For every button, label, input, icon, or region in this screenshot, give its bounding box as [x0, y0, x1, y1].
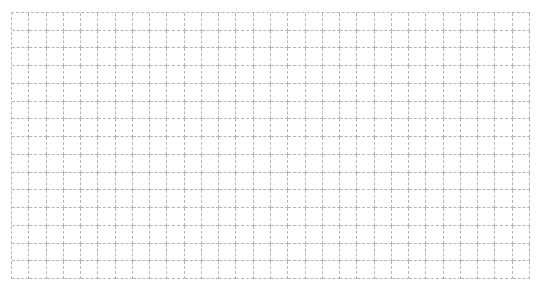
grid-cell [12, 102, 29, 120]
grid-cell [133, 119, 150, 137]
grid-cell [98, 261, 115, 279]
grid-cell [288, 226, 305, 244]
grid-cell [495, 226, 512, 244]
grid-cell [254, 84, 271, 102]
grid-cell [357, 13, 374, 31]
grid-cell [47, 208, 64, 226]
grid-cell [478, 66, 495, 84]
grid-cell [444, 244, 461, 262]
grid-cell [185, 261, 202, 279]
grid-cell [219, 208, 236, 226]
grid-cell [444, 137, 461, 155]
grid-cell [185, 137, 202, 155]
grid-cell [202, 119, 219, 137]
grid-cell [323, 226, 340, 244]
grid-cell [478, 137, 495, 155]
grid-cell [81, 226, 98, 244]
grid-cell [167, 155, 184, 173]
grid-cell [409, 66, 426, 84]
grid-cell [133, 137, 150, 155]
grid-cell [64, 48, 81, 66]
grid-cell [150, 66, 167, 84]
grid-cell [185, 13, 202, 31]
grid-cell [357, 119, 374, 137]
grid-cell [478, 119, 495, 137]
grid-cell [323, 84, 340, 102]
grid-cell [323, 190, 340, 208]
grid-cell [236, 66, 253, 84]
grid-cell [64, 31, 81, 49]
grid-cell [219, 137, 236, 155]
grid-cell [340, 190, 357, 208]
grid-cell [409, 119, 426, 137]
grid-cell [116, 31, 133, 49]
grid-cell [29, 66, 46, 84]
grid-cell [478, 84, 495, 102]
grid-cell [323, 102, 340, 120]
grid-cell [392, 48, 409, 66]
grid-cell [47, 102, 64, 120]
grid-cell [98, 208, 115, 226]
grid-cell [81, 119, 98, 137]
grid-cell [392, 137, 409, 155]
grid-cell [513, 208, 530, 226]
grid-cell [409, 48, 426, 66]
grid-cell [444, 84, 461, 102]
grid-cell [495, 31, 512, 49]
grid-cell [461, 244, 478, 262]
grid-cell [426, 119, 443, 137]
grid-cell [64, 66, 81, 84]
grid-cell [167, 190, 184, 208]
grid-cell [392, 66, 409, 84]
grid-cell [185, 190, 202, 208]
grid-cell [236, 48, 253, 66]
grid-cell [513, 190, 530, 208]
grid-cell [116, 208, 133, 226]
grid-cell [12, 31, 29, 49]
grid-cell [495, 84, 512, 102]
grid-cell [513, 119, 530, 137]
grid-cell [29, 208, 46, 226]
grid-cell [29, 119, 46, 137]
grid-cell [426, 208, 443, 226]
grid-cell [340, 66, 357, 84]
grid-cell [133, 244, 150, 262]
grid-cell [219, 84, 236, 102]
grid-cell [64, 261, 81, 279]
grid-cell [426, 48, 443, 66]
grid-cell [219, 244, 236, 262]
grid-cell [340, 261, 357, 279]
grid-cell [409, 208, 426, 226]
grid-cell [461, 190, 478, 208]
grid-cell [357, 137, 374, 155]
grid-cell [271, 173, 288, 191]
grid-cell [306, 119, 323, 137]
grid-cell [323, 48, 340, 66]
grid-cell [461, 226, 478, 244]
grid-cell [271, 190, 288, 208]
grid-cell [288, 261, 305, 279]
grid-cell [495, 190, 512, 208]
grid-cell [288, 66, 305, 84]
grid-cell [323, 119, 340, 137]
grid-cell [202, 102, 219, 120]
grid-cell [98, 244, 115, 262]
grid-cell [288, 155, 305, 173]
grid-cell [513, 102, 530, 120]
grid-cell [271, 208, 288, 226]
grid-cell [167, 31, 184, 49]
grid-cell [81, 244, 98, 262]
grid-cell [202, 173, 219, 191]
grid-cell [219, 155, 236, 173]
grid-cell [357, 48, 374, 66]
grid-cell [185, 208, 202, 226]
grid-cell [306, 173, 323, 191]
grid-cell [478, 31, 495, 49]
grid-cell [306, 102, 323, 120]
grid-cell [133, 31, 150, 49]
grid-cell [116, 13, 133, 31]
grid-cell [81, 155, 98, 173]
grid-cell [340, 48, 357, 66]
grid-cell [29, 137, 46, 155]
grid-cell [64, 119, 81, 137]
